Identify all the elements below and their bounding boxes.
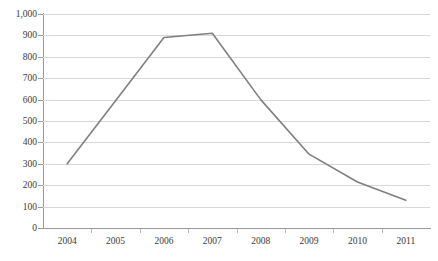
- x-axis-tick-label: 2004: [44, 236, 90, 247]
- x-axis-tick: [285, 229, 286, 233]
- x-axis-tick-label: 2009: [286, 236, 332, 247]
- y-axis-tick: [38, 164, 43, 165]
- y-axis-tick: [38, 78, 43, 79]
- y-axis-tick: [38, 100, 43, 101]
- x-axis-tick-label: 2011: [383, 236, 429, 247]
- y-axis-tick: [38, 121, 43, 122]
- x-axis-tick-label: 2010: [334, 236, 380, 247]
- x-axis-tick-label: 2008: [238, 236, 284, 247]
- x-axis-tick: [140, 229, 141, 233]
- y-axis-tick: [38, 207, 43, 208]
- y-axis-tick: [38, 185, 43, 186]
- series-line: [67, 33, 406, 200]
- y-axis-tick: [38, 228, 43, 229]
- line-chart: 01002003004005006007008009001,000 200420…: [0, 0, 438, 261]
- x-axis-tick-label: 2005: [93, 236, 139, 247]
- x-axis-tick: [91, 229, 92, 233]
- y-axis-tick: [38, 57, 43, 58]
- x-axis-tick: [382, 229, 383, 233]
- x-axis-tick-label: 2007: [189, 236, 235, 247]
- x-axis-tick-label: 2006: [141, 236, 187, 247]
- series-line-group: [0, 0, 438, 261]
- y-axis-tick: [38, 14, 43, 15]
- y-axis-tick: [38, 142, 43, 143]
- x-axis-tick: [188, 229, 189, 233]
- y-axis-tick: [38, 35, 43, 36]
- x-axis-tick: [237, 229, 238, 233]
- x-axis-tick: [333, 229, 334, 233]
